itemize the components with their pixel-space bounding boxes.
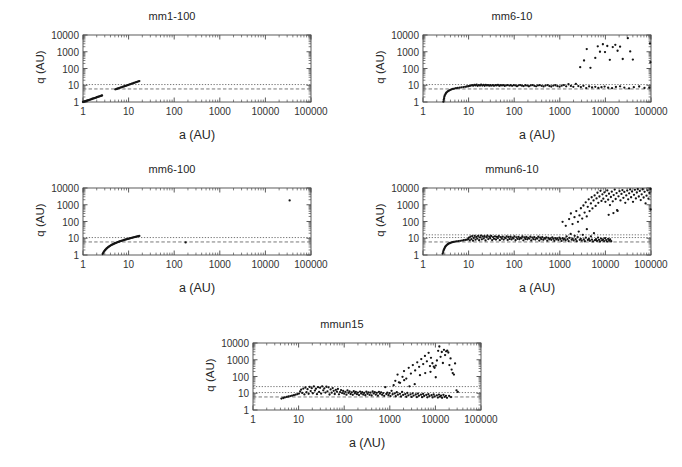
data-point: [489, 237, 491, 239]
data-point: [589, 67, 591, 69]
data-point: [494, 235, 496, 237]
data-point: [530, 239, 532, 241]
data-point: [298, 392, 300, 394]
data-point: [312, 392, 314, 394]
data-point: [639, 190, 641, 192]
data-point: [606, 240, 608, 242]
data-point: [316, 393, 318, 395]
axes-frame: [83, 35, 311, 102]
data-point: [388, 392, 390, 394]
data-point: [302, 387, 304, 389]
y-tick-label: 10: [35, 80, 79, 91]
axes-frame: [253, 343, 481, 410]
x-tick-label: 10: [463, 259, 474, 270]
data-point: [506, 239, 508, 241]
data-point: [538, 239, 540, 241]
data-point: [626, 189, 628, 191]
x-tick-label: 10000: [251, 106, 279, 117]
data-point: [405, 377, 407, 379]
data-point: [619, 46, 621, 48]
x-tick-label: 1000: [379, 414, 401, 425]
y-tick-label: 1: [205, 405, 249, 416]
data-point: [325, 386, 327, 388]
data-point: [393, 384, 395, 386]
data-point: [615, 192, 617, 194]
data-point: [184, 241, 186, 243]
data-point: [524, 238, 526, 240]
data-point: [445, 395, 447, 397]
data-point: [647, 198, 649, 200]
x-tick-label: 10000: [421, 414, 449, 425]
data-point: [606, 45, 608, 47]
data-point: [444, 354, 446, 356]
data-point: [590, 202, 592, 204]
data-point: [315, 388, 317, 390]
data-point: [438, 345, 440, 347]
x-tick-label: 100: [166, 106, 183, 117]
x-tick-label: 100000: [634, 106, 667, 117]
data-point: [642, 188, 644, 190]
data-point: [602, 43, 604, 45]
data-point: [433, 393, 435, 395]
data-point: [598, 195, 600, 197]
data-point: [424, 372, 426, 374]
data-point: [483, 237, 485, 239]
data-point: [616, 50, 618, 52]
y-tick-label: 100: [375, 63, 419, 74]
data-point: [509, 236, 511, 238]
data-point: [404, 393, 406, 395]
data-point: [426, 360, 428, 362]
data-point: [582, 204, 584, 206]
data-point: [396, 391, 398, 393]
data-point: [540, 238, 542, 240]
data-point: [342, 390, 344, 392]
data-point: [618, 190, 620, 192]
data-point: [586, 215, 588, 217]
chart-panel: mm1-100q (AU)a (AU)110100100010000100000…: [22, 10, 322, 155]
data-point: [503, 238, 505, 240]
data-point: [367, 391, 369, 393]
data-point: [429, 365, 431, 367]
data-point: [434, 395, 436, 397]
scatter-series: [442, 188, 652, 255]
data-point: [472, 239, 474, 241]
scatter-series: [82, 80, 141, 103]
data-point: [614, 188, 616, 190]
x-tick-label: 100: [506, 106, 523, 117]
data-point: [588, 85, 590, 87]
data-point: [599, 51, 601, 53]
data-point: [396, 373, 398, 375]
data-point: [607, 87, 609, 89]
x-tick-label: 100: [166, 259, 183, 270]
data-point: [607, 199, 609, 201]
data-point: [307, 393, 309, 395]
data-point: [436, 359, 438, 361]
data-point: [600, 86, 602, 88]
data-point: [610, 240, 612, 242]
y-tick-label: 100: [35, 216, 79, 227]
x-tick-label: 10000: [591, 259, 619, 270]
data-point: [425, 394, 427, 396]
data-point: [628, 87, 630, 89]
data-point: [353, 390, 355, 392]
y-tick-label: 1000: [375, 46, 419, 57]
data-point: [623, 191, 625, 193]
data-point: [522, 239, 524, 241]
data-point: [591, 196, 593, 198]
data-point: [502, 235, 504, 237]
data-point: [328, 393, 330, 395]
data-point: [352, 394, 354, 396]
data-point: [597, 87, 599, 89]
data-point: [643, 191, 645, 193]
data-point: [138, 80, 140, 82]
data-point: [649, 42, 651, 44]
data-point: [570, 212, 572, 214]
data-point: [546, 239, 548, 241]
data-point: [565, 235, 567, 237]
data-point: [473, 237, 475, 239]
chart-panel: mm6-10q (AU)a (AU)1101001000100001000001…: [362, 10, 662, 155]
data-point: [410, 396, 412, 398]
data-point: [433, 367, 435, 369]
data-point: [351, 391, 353, 393]
data-point: [424, 355, 426, 357]
